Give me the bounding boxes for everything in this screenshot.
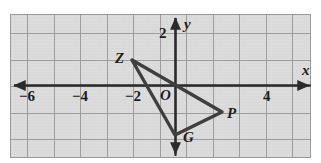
vertex-label-g: G (183, 130, 194, 145)
x-axis-label: x (302, 63, 310, 78)
y-tick-label-2: 2 (159, 26, 167, 41)
x-tick-label-minus6: −6 (19, 89, 35, 104)
x-tick-label-minus2: −2 (125, 89, 141, 104)
x-tick-label-4: 4 (263, 89, 271, 104)
y-axis-label: y (184, 17, 191, 32)
vertex-label-p: P (227, 106, 236, 121)
coordinate-plane-figure: −6 −4 −2 4 2 x y O Z P G (0, 0, 321, 163)
origin-label: O (160, 88, 171, 103)
vertex-label-z: Z (115, 51, 124, 66)
x-tick-label-minus4: −4 (72, 89, 88, 104)
